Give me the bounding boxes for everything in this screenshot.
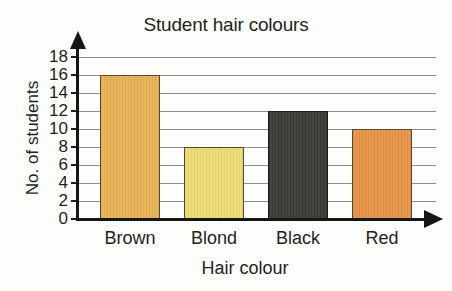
y-axis-tick-label: 0 [28,210,68,227]
y-axis-tick-label: 4 [28,174,68,191]
bar-red [352,129,412,219]
gridline [79,57,436,58]
y-axis-tick-label: 12 [28,102,68,119]
y-axis-tick-label: 2 [28,192,68,209]
y-axis-tick-label: 10 [28,120,68,137]
y-axis-tick-label: 14 [28,84,68,101]
x-axis-title: Hair colour [60,258,430,279]
y-axis-tick-label: 8 [28,138,68,155]
y-axis-line [76,46,79,221]
plot-area: 024681012141618 BrownBlondBlackRed [0,0,452,291]
y-axis-tick-label: 18 [28,48,68,65]
bar-blond [184,147,244,219]
y-axis-arrow-icon [70,31,86,49]
bar-chart: Student hair colours No. of students 024… [0,0,452,291]
y-axis-tick-label: 6 [28,156,68,173]
x-axis-tick-label-red: Red [330,228,434,249]
x-axis-arrow-icon [424,210,443,228]
bar-brown [100,75,160,219]
x-axis-line [76,218,431,221]
bar-black [268,111,328,219]
y-axis-tick-label: 16 [28,66,68,83]
